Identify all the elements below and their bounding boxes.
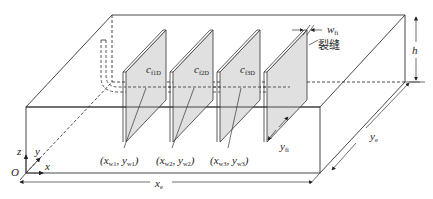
z-axis-label: z: [16, 145, 22, 157]
ye-dimension: [332, 82, 425, 170]
fracture-width-label: wfi: [327, 23, 339, 36]
fracture-2: [170, 30, 213, 142]
fracture-4: [264, 30, 307, 142]
well-point-3: (xw3, yw3): [210, 154, 249, 167]
fracture-3: [217, 30, 260, 142]
y-axis-label: y: [34, 145, 40, 157]
origin-label: O: [11, 166, 19, 178]
well-point-1: (xw1, yw1): [100, 154, 139, 167]
reservoir-box: [26, 15, 405, 173]
coordinate-axes: [20, 155, 43, 180]
well-point-2: (xw2, yw2): [156, 154, 195, 167]
xe-dimension: [20, 173, 320, 184]
fracture-text: 裂缝: [318, 38, 340, 52]
ye-label: ye: [369, 130, 378, 143]
xe-label: xe: [154, 177, 163, 190]
fracture-1: [123, 30, 166, 142]
x-axis-label: x: [44, 160, 50, 172]
reservoir-diagram: cf1D cf2D cf3D wfi 裂缝 h yfi ye (xw1, yw1…: [0, 0, 433, 199]
height-label: h: [412, 44, 418, 56]
fracture-planes: [123, 30, 307, 142]
fracture-halflength-label: yfi: [279, 140, 289, 153]
